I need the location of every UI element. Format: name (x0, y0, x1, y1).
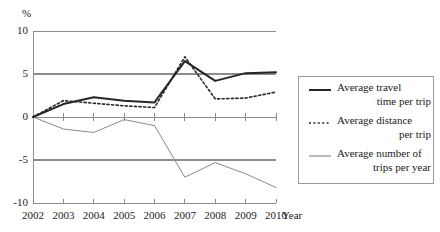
series-line (33, 117, 276, 188)
x-tick-label: 2003 (48, 210, 78, 221)
x-axis-title: Year (282, 210, 302, 221)
legend-label: Average number oftrips per year (337, 147, 431, 174)
solid-line-icon (309, 87, 331, 93)
legend-item-average-number-of-trips-per-year[interactable]: Average number oftrips per year (305, 147, 431, 177)
x-tick-label: 2008 (200, 210, 230, 221)
x-tick-label: 2004 (79, 210, 109, 221)
x-tick-label: 2005 (109, 210, 139, 221)
chart-legend: Average traveltime per trip Average dist… (298, 76, 434, 184)
y-tick-label: -5 (2, 154, 28, 165)
y-tick-label: 5 (2, 68, 28, 79)
x-tick-label: 2007 (170, 210, 200, 221)
x-tick-label: 2009 (231, 210, 261, 221)
x-tick-label: 2002 (18, 210, 48, 221)
legend-item-average-travel-time-per-trip[interactable]: Average traveltime per trip (305, 81, 431, 111)
dotted-line-icon (309, 120, 331, 126)
series-line (33, 61, 276, 117)
x-tick-label: 2006 (140, 210, 170, 221)
y-tick-label: 0 (2, 111, 28, 122)
legend-label: Average traveltime per trip (337, 81, 431, 108)
gray-line-icon (309, 153, 331, 159)
chart-figure: % Average traveltime per trip Average di… (0, 0, 440, 232)
y-tick-label: -10 (2, 197, 28, 208)
legend-item-average-distance-per-trip[interactable]: Average distanceper trip (305, 114, 431, 144)
series-line (33, 57, 276, 117)
y-tick-label: 10 (2, 25, 28, 36)
legend-label: Average distanceper trip (337, 114, 431, 141)
